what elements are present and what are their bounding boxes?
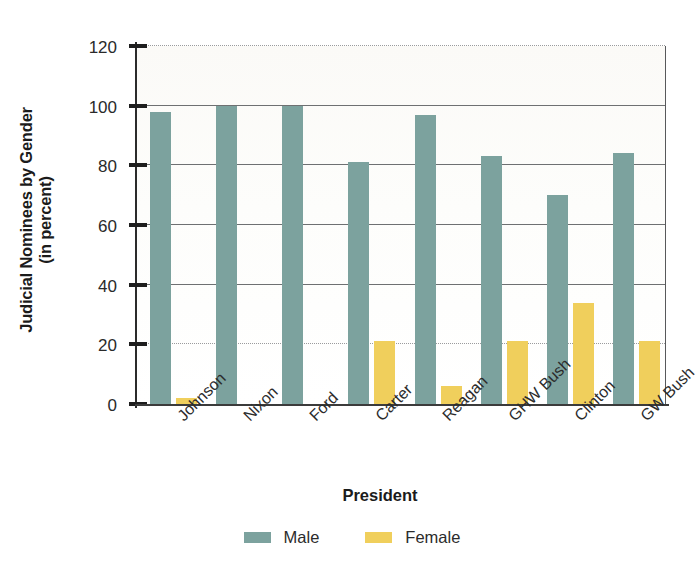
- y-tick-100: 100: [129, 104, 147, 108]
- bar-group: [613, 46, 679, 404]
- y-tick-label-20: 20: [98, 336, 117, 356]
- x-axis-title: President: [0, 486, 700, 505]
- bar-group: [547, 46, 613, 404]
- chart-legend: MaleFemale: [0, 528, 700, 547]
- y-tick-label-0: 0: [108, 396, 117, 416]
- y-axis-title-line1: Judicial Nominees by Gender: [17, 107, 35, 333]
- y-tick-label-60: 60: [98, 217, 117, 237]
- y-tick-label-100: 100: [89, 98, 117, 118]
- y-tick-20: 20: [129, 342, 147, 346]
- legend-swatch-male: [244, 532, 271, 543]
- bar-chart-figure: Judicial Nominees by Gender (in percent)…: [0, 0, 700, 578]
- plot-area: [137, 46, 666, 404]
- bar-male-reagan: [415, 115, 436, 404]
- bar-group: [150, 46, 216, 404]
- y-axis-title: Judicial Nominees by Gender (in percent): [14, 30, 58, 410]
- bar-group: [282, 46, 348, 404]
- bar-male-ford: [282, 106, 303, 404]
- y-tick-label-40: 40: [98, 277, 117, 297]
- y-tick-60: 60: [129, 223, 147, 227]
- bar-group: [481, 46, 547, 404]
- legend-label-male: Male: [284, 528, 320, 547]
- y-tick-120: 120: [129, 44, 147, 48]
- y-axis-title-line2: (in percent): [36, 107, 55, 333]
- y-tick-label-120: 120: [89, 38, 117, 58]
- legend-item-female[interactable]: Female: [365, 528, 460, 547]
- bar-group: [216, 46, 282, 404]
- y-tick-label-80: 80: [98, 157, 117, 177]
- bar-female-clinton: [573, 303, 594, 404]
- bar-male-gw-bush: [613, 153, 634, 404]
- y-tick-80: 80: [129, 163, 147, 167]
- bar-group: [348, 46, 414, 404]
- y-axis: 020406080100120: [135, 42, 137, 408]
- legend-swatch-female: [365, 532, 392, 543]
- bar-male-ghw-bush: [481, 156, 502, 404]
- bar-male-carter: [348, 162, 369, 404]
- legend-item-male[interactable]: Male: [244, 528, 320, 547]
- bar-male-johnson: [150, 112, 171, 404]
- y-tick-40: 40: [129, 283, 147, 287]
- bar-male-nixon: [216, 106, 237, 404]
- legend-label-female: Female: [405, 528, 460, 547]
- bar-group: [415, 46, 481, 404]
